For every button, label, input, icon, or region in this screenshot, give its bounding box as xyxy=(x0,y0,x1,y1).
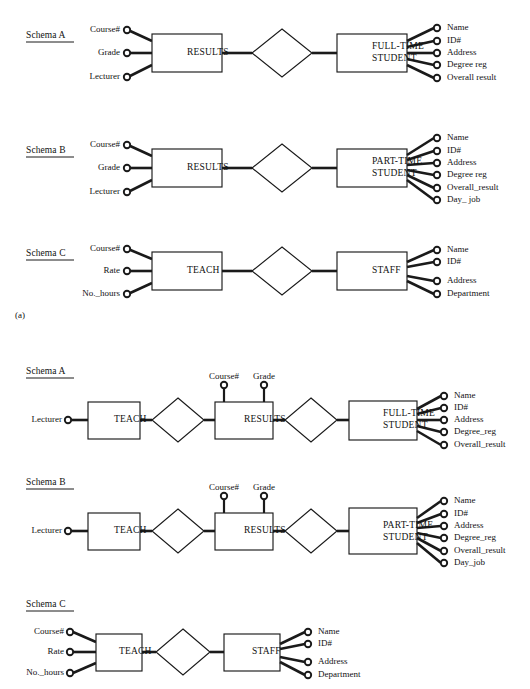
attr-label-b1-right-3: Degree_reg xyxy=(454,427,496,436)
attr-label-b3-left-2: No._hours xyxy=(26,668,64,677)
attr-label-b1-top-1: Grade xyxy=(253,372,275,381)
entity-label-b2-student-line2: STUDENT xyxy=(383,533,428,543)
attr-label-b3-right-3: Department xyxy=(318,670,360,679)
entity-label-a1-right-line1: FULL-TIME xyxy=(372,42,424,52)
entity-label-b3-staff: STAFF xyxy=(252,647,281,657)
entity-label-a3-left: TEACH xyxy=(187,266,220,276)
diagram-vector-layer xyxy=(0,0,530,689)
attr-label-b3-left-1: Rate xyxy=(48,647,65,656)
entity-label-a2-right-line1: PART-TIME xyxy=(372,157,422,167)
attr-label-b2-right-0: Name xyxy=(454,496,476,505)
attr-label-a1-left-0: Course# xyxy=(90,25,120,34)
attr-label-a3-left-2: No._hours xyxy=(82,289,120,298)
entity-label-b2-student-line1: PART-TIME xyxy=(383,521,433,531)
entity-label-a1-right-line2: STUDENT xyxy=(372,54,417,64)
entity-label-b1-teach: TEACH xyxy=(114,415,147,425)
attr-label-b1-right-0: Name xyxy=(454,391,476,400)
entity-label-a2-left: RESULTS xyxy=(187,163,229,173)
schema-title-b2: Schema B xyxy=(26,478,66,488)
schema-title-a3: Schema C xyxy=(26,249,66,259)
attr-label-a2-right-1: ID# xyxy=(447,146,461,155)
attr-label-a2-left-1: Grade xyxy=(98,163,120,172)
er-diagram-canvas: Schema A Course# Grade Lecturer RESULTS … xyxy=(0,0,530,689)
attr-label-a1-right-2: Address xyxy=(447,48,477,57)
attr-label-a3-right-2: Address xyxy=(447,276,477,285)
attr-label-a3-right-3: Department xyxy=(447,289,489,298)
attr-label-b3-right-1: ID# xyxy=(318,639,332,648)
attr-label-a2-right-5: Day_ job xyxy=(447,195,480,204)
attr-label-b1-right-4: Overall_result xyxy=(454,440,505,449)
entity-label-b3-teach: TEACH xyxy=(119,647,152,657)
attr-label-b3-left-0: Course# xyxy=(34,627,64,636)
entity-label-b2-results: RESULTS xyxy=(244,526,286,536)
schema-title-a2: Schema B xyxy=(26,146,66,156)
attr-label-a3-left-1: Rate xyxy=(104,266,121,275)
attr-label-b2-right-1: ID# xyxy=(454,509,468,518)
attr-label-b2-right-2: Address xyxy=(454,521,484,530)
attr-label-b3-right-2: Address xyxy=(318,657,348,666)
attr-label-a2-left-0: Course# xyxy=(90,140,120,149)
attr-label-a1-right-3: Degree reg xyxy=(447,60,487,69)
entity-label-a2-right-line2: STUDENT xyxy=(372,169,417,179)
attr-label-b2-lecturer: Lecturer xyxy=(32,526,62,535)
attr-label-b2-top-1: Grade xyxy=(253,483,275,492)
attr-label-a2-right-3: Degree reg xyxy=(447,170,487,179)
attr-label-a2-right-0: Name xyxy=(447,133,469,142)
attr-label-a1-left-1: Grade xyxy=(98,48,120,57)
entity-label-a3-right-line1: STAFF xyxy=(372,266,401,276)
attr-label-a2-left-2: Lecturer xyxy=(90,187,120,196)
attr-label-a3-right-0: Name xyxy=(447,245,469,254)
attr-label-b2-right-5: Day_job xyxy=(454,558,485,567)
attr-label-a1-right-4: Overall result xyxy=(447,73,496,82)
attr-label-a3-right-1: ID# xyxy=(447,257,461,266)
attr-label-b2-right-3: Degree_reg xyxy=(454,533,496,542)
attr-label-b1-top-0: Course# xyxy=(209,372,239,381)
attr-label-a1-right-0: Name xyxy=(447,23,469,32)
entity-label-b2-teach: TEACH xyxy=(114,526,147,536)
entity-label-a1-left: RESULTS xyxy=(187,48,229,58)
figure-part-a-caption: (a) xyxy=(15,311,25,320)
attr-label-b1-right-1: ID# xyxy=(454,403,468,412)
attr-label-b1-right-2: Address xyxy=(454,415,484,424)
schema-title-a1: Schema A xyxy=(26,31,66,41)
attr-label-b2-top-0: Course# xyxy=(209,483,239,492)
entity-label-b1-student-line2: STUDENT xyxy=(383,421,428,431)
attr-label-a3-left-0: Course# xyxy=(90,244,120,253)
attr-label-a2-right-4: Overall_result xyxy=(447,183,498,192)
schema-title-b1: Schema A xyxy=(26,367,66,377)
attr-label-a1-left-2: Lecturer xyxy=(90,72,120,81)
attr-label-b3-right-0: Name xyxy=(318,627,340,636)
attr-label-b2-right-4: Overall_result xyxy=(454,546,505,555)
attr-label-b1-lecturer: Lecturer xyxy=(32,415,62,424)
attr-label-a1-right-1: ID# xyxy=(447,36,461,45)
entity-label-b1-student-line1: FULL-TIME xyxy=(383,409,435,419)
attr-label-a2-right-2: Address xyxy=(447,158,477,167)
entity-label-b1-results: RESULTS xyxy=(244,415,286,425)
schema-title-b3: Schema C xyxy=(26,600,66,610)
